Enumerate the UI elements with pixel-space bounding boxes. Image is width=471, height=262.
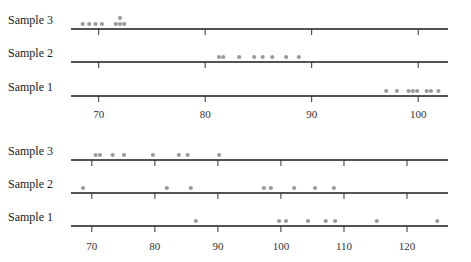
data-point [252, 55, 256, 59]
data-point [186, 153, 190, 157]
data-point [111, 153, 115, 157]
x-tick-label: 90 [212, 240, 224, 252]
data-point [93, 22, 97, 26]
data-point [151, 153, 155, 157]
x-tick-label: 80 [200, 108, 212, 120]
data-point [313, 186, 317, 190]
data-point [217, 55, 221, 59]
data-point [277, 219, 281, 223]
data-point [194, 219, 198, 223]
data-point [221, 55, 225, 59]
data-point [177, 153, 181, 157]
x-tick-label: 100 [410, 108, 427, 120]
data-point [292, 186, 296, 190]
data-point [262, 186, 266, 190]
data-point [435, 219, 439, 223]
data-point [324, 219, 328, 223]
x-tick-label: 70 [86, 240, 98, 252]
data-point [415, 89, 419, 93]
data-point [118, 22, 122, 26]
x-tick-label: 70 [93, 108, 105, 120]
x-tick-label: 110 [336, 240, 353, 252]
series-label: Sample 3 [8, 13, 53, 27]
dot-plot-figure: Sample 3Sample 2Sample 1708090100Sample … [0, 0, 471, 262]
series-label: Sample 2 [8, 177, 53, 191]
data-point [269, 186, 273, 190]
data-point [81, 186, 85, 190]
data-point [429, 89, 433, 93]
data-point [261, 55, 265, 59]
x-tick-label: 120 [399, 240, 416, 252]
series-label: Sample 2 [8, 46, 53, 60]
data-point [122, 22, 126, 26]
data-point [395, 89, 399, 93]
data-point [100, 22, 104, 26]
series-label: Sample 1 [8, 80, 53, 94]
data-point [384, 89, 388, 93]
data-point [189, 186, 193, 190]
data-point [93, 153, 97, 157]
data-point [98, 153, 102, 157]
series-label: Sample 3 [8, 144, 53, 158]
data-point [87, 22, 91, 26]
data-point [284, 219, 288, 223]
data-point [217, 153, 221, 157]
data-point [411, 89, 415, 93]
data-point [118, 16, 122, 20]
data-point [122, 153, 126, 157]
data-point [375, 219, 379, 223]
data-point [165, 186, 169, 190]
x-tick-label: 90 [306, 108, 318, 120]
data-point [237, 55, 241, 59]
data-point [306, 219, 310, 223]
data-point [297, 55, 301, 59]
data-point [407, 89, 411, 93]
data-point [333, 219, 337, 223]
data-point [114, 22, 118, 26]
data-point [436, 89, 440, 93]
series-label: Sample 1 [8, 210, 53, 224]
data-point [425, 89, 429, 93]
data-point [284, 55, 288, 59]
data-point [270, 55, 274, 59]
x-tick-label: 80 [149, 240, 161, 252]
data-point [81, 22, 85, 26]
x-tick-label: 100 [273, 240, 290, 252]
data-point [332, 186, 336, 190]
